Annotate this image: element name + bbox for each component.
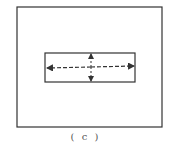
figure-caption: ( c ) [0,131,171,142]
horizontal-arrow [91,66,134,67]
horizontal-arrow [47,67,91,68]
